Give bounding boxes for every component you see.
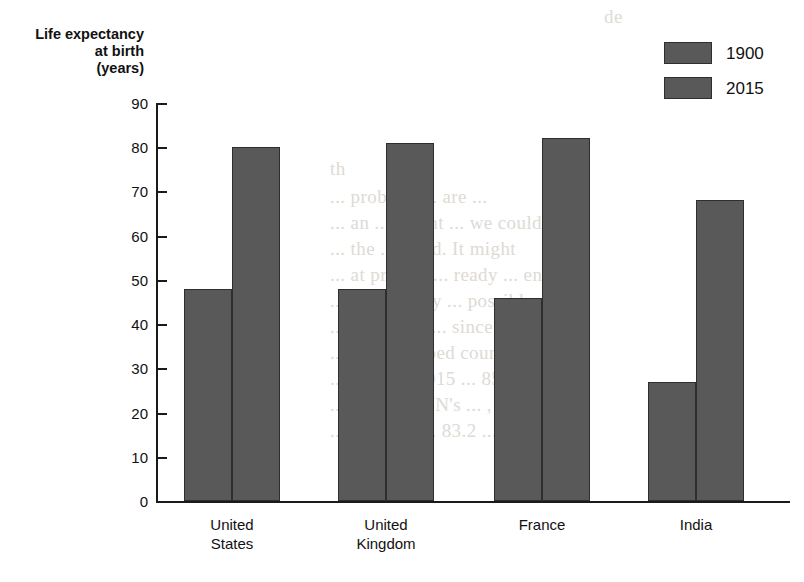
y-axis-tick-label: 10 xyxy=(108,450,148,465)
x-axis-category-label: United States xyxy=(152,515,312,553)
bar-1900[interactable] xyxy=(648,382,696,501)
y-axis-tick xyxy=(158,368,167,370)
bar-2015[interactable] xyxy=(542,138,590,501)
bar-2015[interactable] xyxy=(232,147,280,501)
y-axis-title: Life expectancy at birth (years) xyxy=(8,26,144,77)
y-axis-tick-label: 50 xyxy=(108,273,148,288)
bar-2015[interactable] xyxy=(696,200,744,501)
chart-legend: 1900 2015 xyxy=(664,40,764,110)
x-axis-category-label: France xyxy=(462,515,622,534)
y-axis-tick-label: 0 xyxy=(108,494,148,509)
bar-group xyxy=(494,103,590,501)
legend-swatch-2015 xyxy=(664,77,712,99)
y-axis-tick xyxy=(158,324,167,326)
legend-label-1900: 1900 xyxy=(726,45,764,62)
bar-group xyxy=(184,103,280,501)
y-axis-tick xyxy=(158,280,167,282)
y-axis-line xyxy=(156,103,158,503)
x-axis-category-label: United Kingdom xyxy=(306,515,466,553)
bar-1900[interactable] xyxy=(494,298,542,501)
y-axis-tick xyxy=(158,191,167,193)
y-axis-tick xyxy=(158,236,167,238)
bar-1900[interactable] xyxy=(184,289,232,501)
legend-swatch-1900 xyxy=(664,42,712,64)
y-axis-tick-label: 40 xyxy=(108,317,148,332)
y-axis-tick-label: 80 xyxy=(108,140,148,155)
y-axis-tick xyxy=(158,413,167,415)
y-axis-tick-label: 20 xyxy=(108,406,148,421)
y-axis-tick-label: 30 xyxy=(108,361,148,376)
x-axis-category-label: India xyxy=(616,515,776,534)
y-axis-tick-label: 70 xyxy=(108,184,148,199)
legend-item-2015[interactable]: 2015 xyxy=(664,75,764,101)
legend-label-2015: 2015 xyxy=(726,80,764,97)
y-axis-tick-labels: 0102030405060708090 xyxy=(102,103,148,503)
y-axis-tick-label: 60 xyxy=(108,229,148,244)
y-axis-tick xyxy=(158,103,167,105)
y-axis-tick-label: 90 xyxy=(108,96,148,111)
y-axis-tick xyxy=(158,457,167,459)
y-axis-tick xyxy=(158,147,167,149)
x-axis-line xyxy=(156,501,790,503)
bar-group xyxy=(648,103,744,501)
bar-2015[interactable] xyxy=(386,143,434,501)
bar-chart: Life expectancy at birth (years) 1900 20… xyxy=(0,0,804,582)
bar-group xyxy=(338,103,434,501)
legend-item-1900[interactable]: 1900 xyxy=(664,40,764,66)
bar-1900[interactable] xyxy=(338,289,386,501)
plot-area: 0102030405060708090 United StatesUnited … xyxy=(156,103,790,503)
